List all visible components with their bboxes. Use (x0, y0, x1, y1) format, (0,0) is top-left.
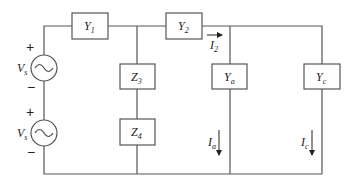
source-sub: s (24, 68, 27, 77)
plus-sign: + (26, 104, 34, 120)
voltage-source-top: + − Vs (17, 39, 57, 95)
current-ic: Ic (300, 130, 312, 155)
minus-sign: − (27, 144, 35, 160)
plus-sign: + (26, 39, 34, 55)
element-y1: Y1 (72, 13, 108, 39)
svg-text:I2: I2 (209, 38, 218, 54)
current-i2: I2 (207, 35, 222, 54)
voltage-source-bottom: + − Vs (17, 104, 57, 160)
circuit-diagram: + − Vs + − Vs Y1 Y2 Z3 Z4 Ya Yc I2 (0, 0, 357, 181)
minus-sign: − (27, 79, 35, 95)
element-y2: Y2 (166, 13, 202, 39)
svg-text:Vs: Vs (17, 126, 27, 142)
element-yc: Yc (304, 64, 340, 89)
wire-top-left (44, 26, 72, 55)
element-z3: Z3 (120, 64, 155, 89)
element-ya: Ya (212, 64, 247, 89)
wires (44, 26, 322, 174)
wire-y2-right (202, 26, 322, 64)
element-z4: Z4 (120, 119, 155, 145)
svg-text:Ia: Ia (207, 135, 216, 151)
svg-text:Ic: Ic (300, 135, 309, 151)
wire-bottom (44, 146, 322, 174)
current-ia: Ia (207, 130, 219, 155)
svg-text:Vs: Vs (17, 61, 27, 77)
source-sub: s (24, 133, 27, 142)
